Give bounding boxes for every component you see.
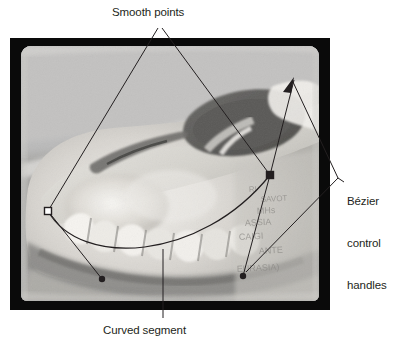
- label-bezier-line-2: control: [347, 236, 387, 250]
- label-bezier-line-3: handles: [347, 278, 387, 292]
- photo-image: RI SAVOT MHs ASSIA CAIGI ANTE EURASIA): [21, 46, 319, 301]
- label-bezier-line-1: Bézier: [347, 194, 387, 208]
- label-smooth-points: Smooth points: [112, 6, 184, 20]
- label-bezier-control-handles: Bézier control handles: [347, 166, 387, 320]
- label-curved-segment: Curved segment: [103, 324, 186, 338]
- photo-frame: RI SAVOT MHs ASSIA CAIGI ANTE EURASIA): [10, 38, 330, 310]
- skull-photograph: RI SAVOT MHs ASSIA CAIGI ANTE EURASIA): [21, 46, 319, 301]
- figure-root: RI SAVOT MHs ASSIA CAIGI ANTE EURASIA): [0, 0, 399, 345]
- leader-bezier-elbow: [338, 178, 344, 182]
